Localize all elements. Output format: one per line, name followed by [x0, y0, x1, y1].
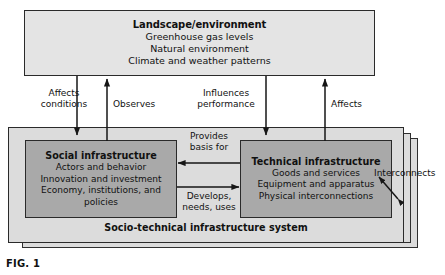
label-affects-conditions: Affects conditions: [34, 88, 94, 110]
label-influences-line2: performance: [197, 99, 255, 109]
label-influences-line1: Influences: [203, 88, 249, 98]
label-develops-line1: Develops,: [187, 191, 232, 201]
figure-caption: FIG. 1: [6, 258, 40, 269]
label-affects-conditions-line1: Affects: [48, 88, 79, 98]
label-influences-performance: Influences performance: [190, 88, 262, 110]
figure-socio-technical-infrastructure: Landscape/environment Greenhouse gas lev…: [0, 0, 445, 275]
label-affects: Affects: [331, 99, 362, 110]
label-affects-conditions-line2: conditions: [41, 99, 87, 109]
label-provides-line2: basis for: [190, 142, 228, 152]
label-develops-needs-uses: Develops, needs, uses: [180, 191, 238, 213]
label-interconnects: Interconnects: [374, 168, 436, 179]
label-observes: Observes: [113, 99, 155, 110]
label-provides-basis-for: Provides basis for: [180, 131, 238, 153]
label-provides-line1: Provides: [190, 131, 228, 141]
label-develops-line2: needs, uses: [182, 202, 236, 212]
arrow-interconnects: [379, 177, 398, 199]
